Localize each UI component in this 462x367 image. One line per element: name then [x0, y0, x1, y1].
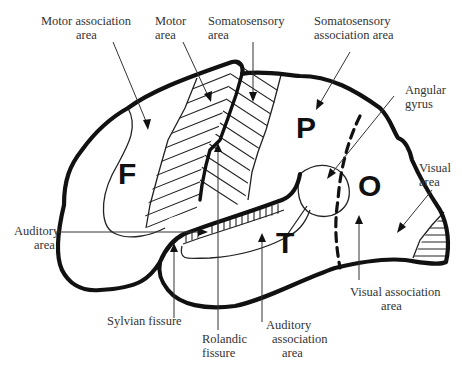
- lobe-letter-frontal: F: [118, 157, 136, 190]
- svg-text:fissure: fissure: [202, 346, 236, 360]
- label-auditory-area: Auditory area: [14, 224, 60, 252]
- parieto-occipital-boundary: [336, 116, 360, 268]
- svg-text:area: area: [34, 238, 55, 252]
- label-angular-gyrus: Angular gyrus: [405, 83, 447, 111]
- svg-text:area: area: [419, 175, 440, 189]
- brain-diagram: F P O T: [0, 0, 462, 367]
- svg-text:area: area: [76, 28, 97, 42]
- svg-text:Motor association: Motor association: [41, 14, 132, 28]
- svg-text:Motor: Motor: [155, 14, 187, 28]
- label-somatosensory-association: Somatosensory association area: [314, 14, 394, 42]
- svg-text:Somatosensory: Somatosensory: [208, 14, 285, 28]
- label-somatosensory-area: Somatosensory area: [208, 14, 285, 42]
- label-motor-area: Motor area: [155, 14, 187, 42]
- somatosensory-area-hatching: [200, 40, 300, 245]
- svg-text:Visual association: Visual association: [350, 285, 441, 299]
- svg-text:area: area: [282, 346, 303, 360]
- svg-text:Somatosensory: Somatosensory: [314, 14, 391, 28]
- lobe-letter-occipital: O: [358, 169, 381, 202]
- svg-text:association area: association area: [314, 28, 394, 42]
- label-rolandic-fissure: Rolandic fissure: [202, 332, 248, 360]
- svg-text:Visual: Visual: [419, 161, 451, 175]
- svg-text:area: area: [381, 299, 402, 313]
- svg-text:gyrus: gyrus: [405, 97, 433, 111]
- svg-text:Auditory: Auditory: [266, 318, 312, 332]
- label-sylvian-fissure: Sylvian fissure: [107, 314, 182, 328]
- label-visual-association: Visual association area: [350, 285, 441, 313]
- label-visual-area: Visual area: [419, 161, 451, 189]
- svg-text:association: association: [272, 332, 328, 346]
- lobe-letter-temporal: T: [276, 226, 294, 259]
- svg-text:Angular: Angular: [405, 83, 447, 97]
- svg-text:area: area: [208, 28, 229, 42]
- lobe-letter-parietal: P: [296, 111, 316, 144]
- svg-text:Auditory: Auditory: [14, 224, 60, 238]
- svg-text:Rolandic: Rolandic: [202, 332, 248, 346]
- label-auditory-association: Auditory association area: [266, 318, 328, 360]
- label-motor-association: Motor association area: [41, 14, 132, 42]
- svg-text:Sylvian fissure: Sylvian fissure: [107, 314, 182, 328]
- svg-text:area: area: [155, 28, 176, 42]
